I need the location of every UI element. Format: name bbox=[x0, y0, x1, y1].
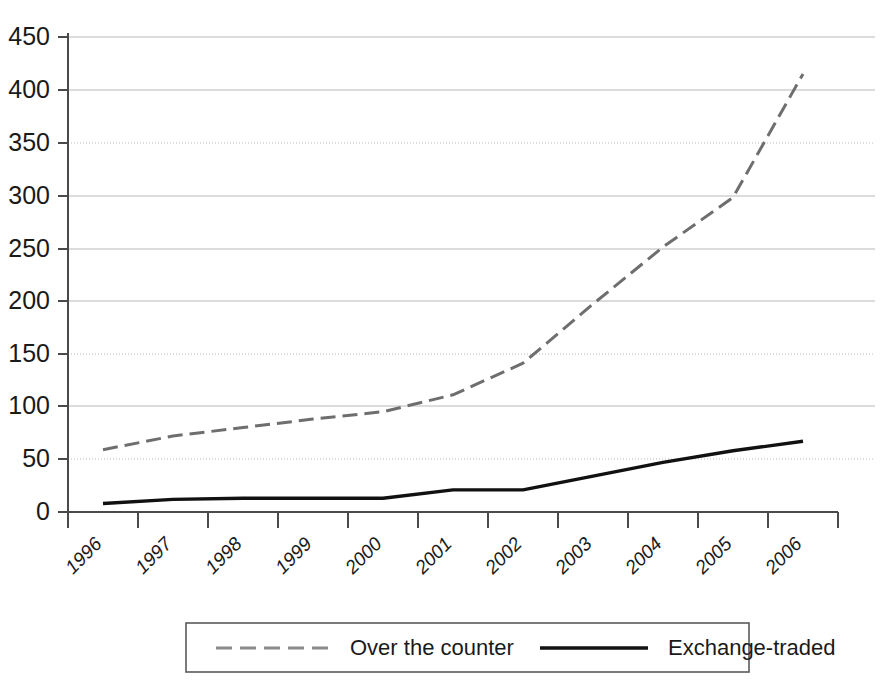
plot-series bbox=[103, 74, 803, 504]
x-axis-ticks bbox=[68, 512, 838, 528]
y-axis-ticks bbox=[58, 37, 68, 512]
y-tick-label-450: 450 bbox=[8, 22, 50, 50]
y-tick-label-0: 0 bbox=[36, 497, 50, 525]
x-tick-label-2005: 2005 bbox=[690, 533, 736, 579]
x-tick-label-1998: 1998 bbox=[201, 533, 246, 578]
legend: Over the counter Exchange-traded bbox=[186, 623, 836, 672]
x-tick-label-2001: 2001 bbox=[410, 533, 455, 578]
legend-label-over-the-counter: Over the counter bbox=[350, 635, 514, 660]
x-tick-label-2004: 2004 bbox=[620, 533, 665, 578]
y-tick-label-350: 350 bbox=[8, 128, 50, 156]
x-tick-label-2002: 2002 bbox=[480, 533, 526, 579]
series-line-exchange-traded bbox=[103, 441, 803, 503]
y-tick-label-300: 300 bbox=[8, 181, 50, 209]
y-tick-label-400: 400 bbox=[8, 75, 50, 103]
x-tick-label-2000: 2000 bbox=[340, 533, 386, 579]
y-axis-labels: 450 400 350 300 250 200 150 100 50 0 bbox=[8, 22, 50, 525]
x-tick-label-2003: 2003 bbox=[550, 533, 596, 579]
x-axis-labels: 1996 1997 1998 1999 2000 2001 2002 2003 … bbox=[61, 532, 806, 578]
x-tick-label-1997: 1997 bbox=[131, 532, 177, 578]
y-tick-label-150: 150 bbox=[8, 339, 50, 367]
series-line-over-the-counter bbox=[103, 74, 803, 450]
gridlines bbox=[68, 37, 875, 459]
chart-canvas: 450 400 350 300 250 200 150 100 50 0 bbox=[0, 0, 890, 688]
y-tick-label-50: 50 bbox=[22, 444, 50, 472]
x-tick-label-1996: 1996 bbox=[61, 533, 106, 578]
x-tick-label-2006: 2006 bbox=[760, 533, 806, 579]
y-tick-label-100: 100 bbox=[8, 391, 50, 419]
y-tick-label-250: 250 bbox=[8, 234, 50, 262]
x-tick-label-1999: 1999 bbox=[271, 533, 316, 578]
y-tick-label-200: 200 bbox=[8, 286, 50, 314]
line-chart: 450 400 350 300 250 200 150 100 50 0 bbox=[0, 0, 890, 688]
legend-label-exchange-traded: Exchange-traded bbox=[668, 635, 836, 660]
